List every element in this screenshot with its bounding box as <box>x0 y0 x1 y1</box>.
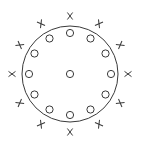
x-marker-icon <box>15 99 24 107</box>
x-marker-icon <box>15 41 24 49</box>
o-marker-icon <box>102 91 109 98</box>
x-marker-icon <box>67 129 72 136</box>
o-marker-icon <box>66 29 73 36</box>
o-marker-icon <box>31 50 38 57</box>
boundary-circle <box>22 26 118 122</box>
x-marker-icon <box>67 13 72 20</box>
circle-marker-diagram <box>0 0 142 144</box>
x-marker-icon <box>95 120 103 129</box>
center-o-marker-icon <box>66 70 73 77</box>
x-marker-icon <box>116 41 125 49</box>
o-marker-icon <box>46 35 53 42</box>
o-marker-icon <box>46 106 53 113</box>
x-marker-icon <box>125 71 132 76</box>
o-marker-icon <box>87 106 94 113</box>
o-marker-icon <box>107 70 114 77</box>
x-marker-icon <box>9 71 16 76</box>
o-marker-icon <box>102 50 109 57</box>
o-marker-icon <box>87 35 94 42</box>
x-marker-icon <box>116 99 125 107</box>
o-marker-icon <box>31 91 38 98</box>
outer-x-markers <box>9 13 132 136</box>
x-marker-icon <box>37 19 45 28</box>
inner-o-markers <box>25 29 114 118</box>
x-marker-icon <box>95 19 103 28</box>
o-marker-icon <box>66 111 73 118</box>
o-marker-icon <box>25 70 32 77</box>
x-marker-icon <box>37 120 45 129</box>
